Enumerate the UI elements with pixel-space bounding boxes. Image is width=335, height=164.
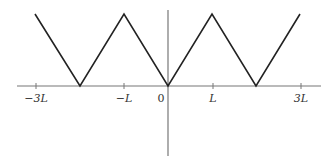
origin-label: 0 — [158, 92, 165, 105]
tick-label: L — [208, 92, 216, 105]
tick-label: −3L — [24, 92, 48, 105]
triangle-wave-diagram: −3L−LL3L 0 — [0, 0, 335, 164]
tick-label: −L — [116, 92, 133, 105]
tick-label: 3L — [294, 92, 308, 105]
